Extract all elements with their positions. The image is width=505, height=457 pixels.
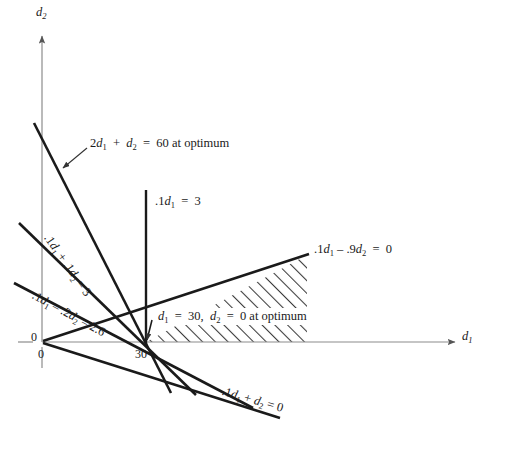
label-objective: 2d1 + d2 = 60 at optimum: [90, 137, 229, 150]
origin-label-x: 0: [38, 348, 44, 360]
graph-canvas: [0, 0, 505, 457]
goal-programming-graph: d2 d1 0 0 30 2d1 + d2 = 60 at optimum .1…: [0, 0, 505, 457]
label-optimum-point: d1 = 30, d2 = 0 at optimum: [155, 308, 310, 325]
ray-lower: [43, 343, 280, 418]
optimum-pointer: [147, 320, 152, 340]
x-axis-label: d1: [462, 330, 473, 343]
leader-objective: [63, 148, 87, 168]
label-ray-upper: .1d1 – .9d2 = 0: [314, 243, 392, 256]
y-axis-label: d2: [36, 6, 47, 19]
label-vertical-constraint: .1d1 = 3: [155, 195, 201, 208]
origin-label-y: 0: [31, 331, 37, 343]
x-tick-30: 30: [135, 348, 147, 360]
